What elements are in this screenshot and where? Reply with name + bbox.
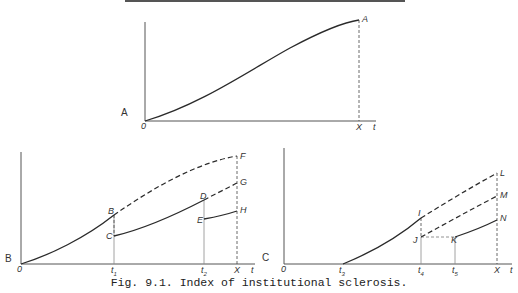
point-j-label: J xyxy=(412,235,418,245)
figure-canvas: A 0 A X t B 0 B C D E F G H t1 t2 X t xyxy=(0,0,518,293)
panel-c-curve-i-l xyxy=(421,173,497,218)
panel-b-curve-0-b xyxy=(21,215,114,264)
point-b-label: B xyxy=(108,206,114,216)
panel-c-curve-t3-i xyxy=(343,218,421,264)
panel-a-tick-x: X xyxy=(355,122,363,132)
panel-a: A 0 A X t xyxy=(121,14,376,132)
panel-b-origin: 0 xyxy=(17,264,22,274)
panel-a-origin: 0 xyxy=(141,121,146,131)
point-m-label: M xyxy=(500,190,508,200)
panel-b-tick-x: X xyxy=(233,265,241,275)
point-d-label: D xyxy=(200,191,207,201)
panel-c-tick-x: X xyxy=(493,265,501,275)
point-k-label: K xyxy=(451,235,458,245)
point-g-label: G xyxy=(240,177,247,187)
panel-c-curve-j-m xyxy=(421,196,497,237)
panel-c: C 0 I J K L M N t3 t4 t5 X t xyxy=(262,148,513,277)
point-f-label: F xyxy=(240,151,246,161)
top-rule xyxy=(125,0,405,2)
point-a-label: A xyxy=(361,14,368,24)
point-h-label: H xyxy=(240,205,247,215)
point-i-label: I xyxy=(418,208,421,218)
panel-b-t-axis-label: t xyxy=(251,265,254,275)
figure-caption: Fig. 9.1. Index of institutional scleros… xyxy=(0,276,518,289)
panel-a-t-axis-label: t xyxy=(373,122,376,132)
panel-b: B 0 B C D E F G H t1 t2 X t xyxy=(5,151,255,277)
panel-b-curve-b-f xyxy=(114,156,237,215)
panel-c-curve-k-n xyxy=(455,220,497,237)
panel-a-curve-0-a xyxy=(145,20,359,121)
point-c-label: C xyxy=(106,231,113,241)
point-l-label: L xyxy=(500,168,505,178)
point-e-label: E xyxy=(197,215,204,225)
panel-b-label: B xyxy=(5,253,12,264)
panel-c-label: C xyxy=(262,252,269,263)
panel-c-t-axis-label: t xyxy=(510,265,513,275)
panel-b-curve-e-h xyxy=(204,211,237,219)
panel-c-origin: 0 xyxy=(281,264,286,274)
panel-b-curve-d-g xyxy=(204,183,237,200)
point-n-label: N xyxy=(500,213,507,223)
panel-a-label: A xyxy=(121,107,128,118)
